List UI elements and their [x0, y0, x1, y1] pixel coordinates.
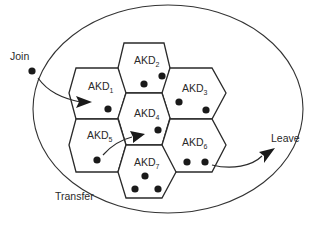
- member-dot-akd3: [202, 106, 209, 113]
- member-dot-akd6: [201, 158, 208, 165]
- join-label: Join: [10, 50, 29, 62]
- member-dot-akd2: [158, 72, 165, 79]
- leave-arrowhead-icon: [259, 148, 275, 163]
- hexagon-akd4: [118, 93, 170, 145]
- member-dot-akd2: [140, 80, 147, 87]
- cell-akd3: AKD3: [162, 68, 226, 119]
- member-dot-akd4: [154, 126, 161, 133]
- leave-label: Leave: [271, 132, 300, 144]
- hexagon-akd5: [69, 119, 126, 172]
- joining-member-dot: [28, 67, 35, 74]
- cell-akd4: AKD4: [118, 93, 170, 145]
- hexagon-akd1: [69, 68, 126, 119]
- leave-event: Leave: [212, 132, 300, 167]
- member-dot-akd3: [175, 98, 182, 105]
- member-dot-akd7: [141, 172, 148, 179]
- transfer-label: Transfer: [55, 190, 94, 202]
- member-dot-akd6: [183, 158, 190, 165]
- cell-akd1: AKD1: [69, 68, 126, 119]
- member-dot-akd7: [154, 185, 161, 192]
- akd-diagram: AKD2 AKD1 AKD3 AKD4 AKD5 AKD6 AKD7: [0, 0, 311, 225]
- member-dot-akd7: [131, 185, 138, 192]
- cell-akd5: AKD5: [69, 119, 126, 172]
- member-dot-akd1: [104, 105, 111, 112]
- member-dot-akd5: [93, 156, 100, 163]
